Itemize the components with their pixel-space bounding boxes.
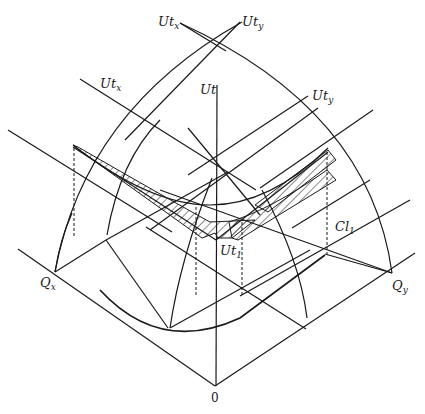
label-qy: Qy bbox=[392, 278, 409, 295]
uty-top-line bbox=[125, 22, 240, 140]
qy-axis-line bbox=[215, 253, 415, 386]
label-uty-top: Uty bbox=[242, 14, 264, 31]
ut1-left-edge bbox=[73, 147, 216, 240]
grid-line-right-1 bbox=[106, 240, 168, 328]
utx-lower-line bbox=[188, 128, 260, 215]
utility-surface-diagram: Utx Uty Utx Uty Ut Ut1 Cl1 Qx Qy 0 bbox=[0, 0, 425, 414]
utx-left-line bbox=[8, 130, 172, 232]
label-utx-mid: Utx bbox=[100, 76, 121, 93]
grid-line-left-2 bbox=[170, 250, 310, 328]
label-qx: Qx bbox=[40, 275, 56, 292]
uty-right-line bbox=[260, 110, 373, 188]
label-ut-axis: Ut bbox=[200, 82, 217, 97]
ut1-right-edge bbox=[216, 152, 328, 240]
uty-mid-line bbox=[188, 96, 308, 175]
qy-ray-to-cl1 bbox=[325, 254, 392, 273]
middle-arc-left bbox=[107, 120, 160, 235]
hatched-region-right bbox=[229, 170, 336, 240]
qx-ray-to-mid bbox=[55, 240, 106, 272]
label-origin: 0 bbox=[211, 391, 219, 405]
outer-arc-left bbox=[55, 22, 242, 272]
qx-axis-line bbox=[18, 249, 215, 386]
label-uty-mid: Uty bbox=[312, 88, 334, 105]
label-ut1: Ut1 bbox=[220, 243, 242, 260]
label-utx-top: Utx bbox=[158, 14, 179, 31]
label-cl1: Cl1 bbox=[335, 219, 355, 236]
